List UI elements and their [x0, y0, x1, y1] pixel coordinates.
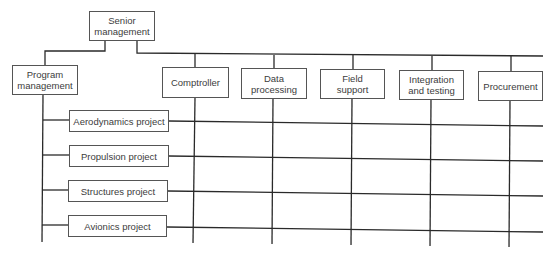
avionics-project-label: Avionics project [84, 221, 150, 232]
propulsion-project-box: Propulsion project [69, 145, 169, 167]
avionics-project-box: Avionics project [68, 215, 167, 237]
program-management-box: Program management [12, 65, 78, 95]
senior-management-box: Senior management [89, 11, 155, 41]
procurement-box: Procurement [478, 71, 543, 101]
integration-testing-box: Integration and testing [399, 70, 464, 100]
connector-senior-to-program [45, 41, 105, 65]
data-processing-label: Data processing [251, 73, 297, 95]
aerodynamics-project-label: Aerodynamics project [73, 116, 164, 127]
comptroller-label: Comptroller [171, 77, 220, 88]
program-management-label: Program management [17, 69, 72, 91]
program-spine [42, 95, 43, 242]
data-processing-box: Data processing [241, 68, 307, 99]
comptroller-box: Comptroller [162, 67, 229, 98]
aerodynamics-project-box: Aerodynamics project [69, 110, 169, 132]
structures-project-label: Structures project [81, 186, 155, 197]
structures-project-box: Structures project [68, 180, 168, 202]
senior-management-label: Senior management [94, 15, 149, 37]
integration-testing-label: Integration and testing [408, 74, 454, 96]
field-support-box: Field support [320, 69, 385, 99]
propulsion-project-label: Propulsion project [81, 151, 157, 162]
field-support-label: Field support [337, 73, 369, 95]
connector-senior-to-functional-bus [137, 41, 543, 56]
procurement-label: Procurement [483, 81, 537, 92]
